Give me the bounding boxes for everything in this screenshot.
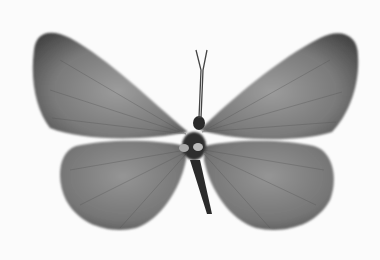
- butterfly-image: [0, 0, 380, 260]
- right-hindwing: [204, 141, 334, 230]
- thorax-highlight-right: [193, 143, 203, 151]
- left-forewing: [33, 33, 188, 139]
- butterfly-illustration: [0, 0, 380, 260]
- thorax-highlight-left: [179, 144, 189, 152]
- right-forewing: [200, 33, 358, 139]
- right-antenna: [201, 50, 207, 118]
- left-antenna: [196, 50, 201, 118]
- head: [193, 116, 205, 130]
- left-hindwing: [60, 141, 186, 230]
